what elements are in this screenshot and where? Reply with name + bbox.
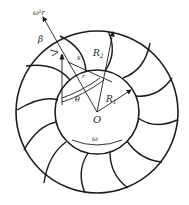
label-centripetal: ω²r: [33, 9, 46, 17]
label-r2: R2: [92, 48, 104, 59]
label-r1: R1: [105, 94, 117, 105]
label-beta: β: [37, 34, 43, 44]
label-origin: O: [93, 114, 101, 125]
label-theta: θ: [75, 95, 80, 104]
theta-arc-2: [62, 80, 104, 102]
label-omega: ω: [92, 135, 98, 143]
blade-point: [61, 55, 64, 58]
beta-angle: [50, 50, 58, 56]
impeller-diagram: ω²r β s r θ R2 R1 O ω: [0, 0, 189, 205]
label-s: s: [77, 54, 81, 62]
label-r: r: [82, 72, 86, 79]
